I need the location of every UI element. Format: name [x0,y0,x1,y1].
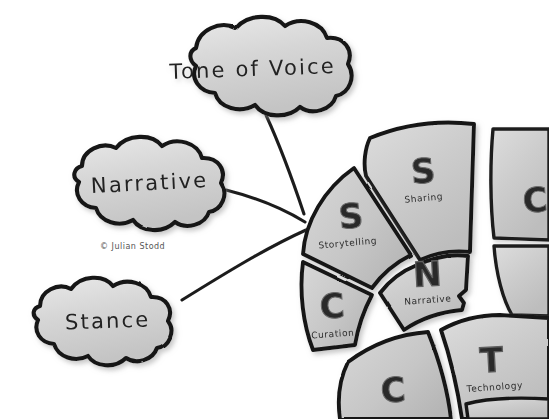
wheel-segment-sharing-letter: S [410,150,437,192]
credit-text: © Julian Stodd [100,242,165,251]
wheel-segment-storytelling-letter: S [337,195,365,237]
wheel-segment-collaboration-letter: C [379,369,407,411]
wheel-segment-stub[interactable] [466,398,549,419]
wheel-segment-edge-upper-letter: C [521,179,549,221]
wheel-segment-edge-upper[interactable]: C [491,129,549,240]
wheel-segment-technology-letter: T [479,339,505,380]
sketch-canvas: C S Sharing S Storytelling C Curation [0,0,549,419]
wheel-segment-narrative-letter: N [412,253,443,294]
wheel-segment-curation-letter: C [318,285,346,327]
diagram-svg: C S Sharing S Storytelling C Curation [0,0,549,419]
cloud-stance-label: Stance [65,308,151,335]
